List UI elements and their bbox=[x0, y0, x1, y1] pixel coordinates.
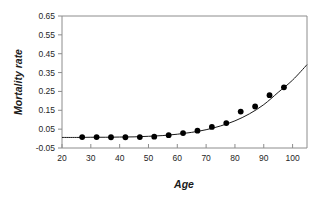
y-tick-label: -0.05 bbox=[36, 143, 56, 153]
x-axis-title: Age bbox=[173, 178, 194, 190]
x-tick-label: 30 bbox=[86, 153, 96, 163]
x-tick-label: 20 bbox=[57, 153, 67, 163]
data-point bbox=[137, 134, 143, 140]
x-tick-label: 60 bbox=[173, 153, 183, 163]
y-tick-label: 0.35 bbox=[38, 68, 55, 78]
data-point bbox=[209, 124, 215, 130]
data-point bbox=[180, 130, 186, 136]
data-point bbox=[223, 120, 229, 126]
mortality-rate-scatter-chart: -0.050.050.150.250.350.450.550.65 203040… bbox=[0, 0, 331, 197]
chart-figure: -0.050.050.150.250.350.450.550.65 203040… bbox=[0, 0, 331, 197]
data-point bbox=[281, 84, 287, 90]
data-point bbox=[195, 128, 201, 134]
y-tick-label: 0.15 bbox=[38, 105, 55, 115]
y-tick-label: 0.65 bbox=[38, 11, 55, 21]
x-tick-label: 40 bbox=[115, 153, 125, 163]
data-point bbox=[79, 134, 85, 140]
y-tick-label: 0.55 bbox=[38, 30, 55, 40]
y-axis-title: Mortality rate bbox=[12, 49, 24, 115]
y-tick-label: 0.25 bbox=[38, 86, 55, 96]
y-tick-label: 0.05 bbox=[38, 124, 55, 134]
x-tick-label: 50 bbox=[144, 153, 154, 163]
data-point bbox=[151, 134, 157, 140]
x-tick-label: 100 bbox=[285, 153, 299, 163]
y-tick-label: 0.45 bbox=[38, 49, 55, 59]
data-point bbox=[238, 109, 244, 115]
x-tick-label: 90 bbox=[259, 153, 269, 163]
x-tick-label: 70 bbox=[201, 153, 211, 163]
data-point bbox=[108, 134, 114, 140]
data-point bbox=[94, 134, 100, 140]
data-point bbox=[166, 132, 172, 138]
data-point bbox=[267, 92, 273, 98]
data-point bbox=[252, 104, 258, 110]
data-point bbox=[123, 134, 129, 140]
x-tick-label: 80 bbox=[230, 153, 240, 163]
